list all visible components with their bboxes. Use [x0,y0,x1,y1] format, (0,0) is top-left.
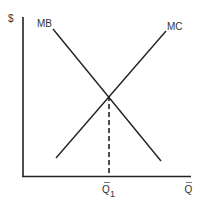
mb-label: MB [37,18,52,29]
x-axis-label: Q [185,184,193,195]
q1-subscript: 1 [110,189,115,199]
mb-mc-diagram: $ MB MC Q 1 Q [0,0,202,210]
x-axis-quantity-label: Q [185,183,193,196]
y-axis-label: $ [8,13,14,24]
equilibrium-quantity-label: Q 1 [102,183,115,200]
mb-curve [53,29,161,161]
mc-curve [56,31,166,158]
mc-label: MC [167,21,183,32]
q1-letter: Q [102,184,110,195]
